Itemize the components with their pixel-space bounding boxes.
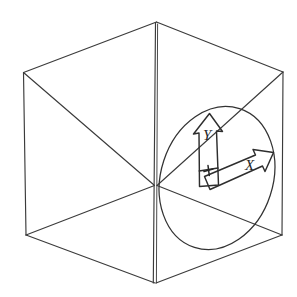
figure-background [0, 0, 297, 297]
figure-root: Y X [0, 0, 297, 297]
cube-coordinate-figure: Y X [0, 0, 297, 297]
x-axis-label: X [244, 157, 255, 173]
